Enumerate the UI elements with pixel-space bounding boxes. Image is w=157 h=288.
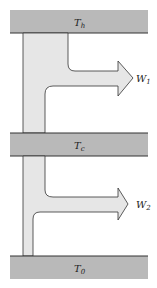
- label-w1: W1: [136, 73, 151, 86]
- energy-stream-lower: [23, 156, 128, 256]
- heat-engine-diagram: Th Tc T0 W1 W2: [0, 0, 157, 288]
- energy-stream-upper: [23, 33, 133, 133]
- label-w2: W2: [136, 199, 151, 212]
